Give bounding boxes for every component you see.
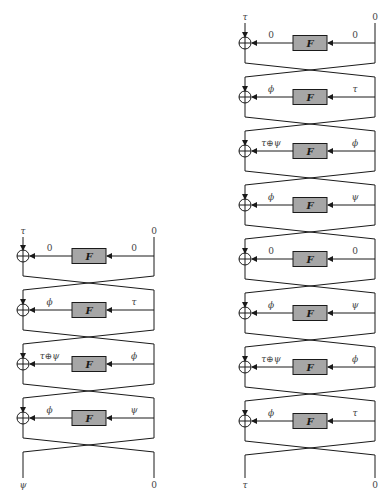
round-function-label: F (84, 305, 93, 316)
right-wire-label: ψ (351, 300, 359, 310)
left-wire-label: ϕ (46, 405, 52, 415)
feistel-network-8-rounds: τ0F00FϕτFτ⊕ψϕFϕψF00FϕψFτ⊕ψϕFϕττ0 (239, 12, 378, 490)
round-function-label: F (305, 146, 314, 157)
caption-fragment-left (62, 494, 212, 500)
right-wire-label: ψ (351, 192, 359, 202)
caption-fragment-right (285, 494, 391, 500)
left-wire-label: ϕ (268, 192, 274, 202)
bottom-output-left-label: ψ (19, 480, 27, 490)
left-wire-label: τ⊕ψ (40, 351, 61, 361)
bottom-output-right-label: 0 (151, 480, 157, 490)
right-wire-label: τ (353, 408, 359, 418)
round-function-label: F (305, 254, 314, 265)
left-wire-label: ϕ (268, 84, 274, 94)
right-wire-label: ϕ (352, 354, 358, 364)
round-function-label: F (84, 413, 93, 424)
right-wire-label: 0 (352, 246, 358, 256)
round-function-label: F (84, 359, 93, 370)
right-wire-label: τ (132, 297, 138, 307)
round-function-label: F (305, 416, 314, 427)
left-wire-label: ϕ (268, 408, 274, 418)
right-wire-label: τ (353, 84, 359, 94)
bottom-output-right-label: 0 (372, 480, 378, 490)
left-wire-label: 0 (268, 246, 274, 256)
right-wire-label: 0 (352, 30, 358, 40)
top-input-left-label: τ (243, 12, 249, 22)
round-function-label: F (305, 308, 314, 319)
right-wire-label: 0 (131, 243, 137, 253)
round-function-label: F (305, 92, 314, 103)
top-input-left-label: τ (21, 226, 27, 236)
left-wire-label: τ⊕ψ (261, 354, 282, 364)
top-input-right-label: 0 (372, 12, 378, 22)
round-function-label: F (305, 362, 314, 373)
left-wire-label: 0 (268, 30, 274, 40)
feistel-network-4-rounds: τ0F00FϕτFτ⊕ψϕFϕψψ0 (17, 226, 157, 490)
round-function-label: F (84, 251, 93, 262)
round-function-label: F (305, 38, 314, 49)
right-wire-label: ψ (130, 405, 138, 415)
left-wire-label: 0 (47, 243, 53, 253)
top-input-right-label: 0 (151, 226, 157, 236)
left-wire-label: ϕ (268, 300, 274, 310)
round-function-label: F (305, 200, 314, 211)
feistel-round: Fϕτ (239, 408, 375, 478)
left-wire-label: ϕ (46, 297, 52, 307)
feistel-round: Fϕψ (17, 405, 154, 478)
bottom-output-left-label: τ (243, 480, 249, 490)
feistel-diagram-canvas: τ0F00FϕτFτ⊕ψϕFϕψψ0 τ0F00FϕτFτ⊕ψϕFϕψF00Fϕ… (0, 0, 391, 500)
right-wire-label: ϕ (131, 351, 137, 361)
right-wire-label: ϕ (352, 138, 358, 148)
left-wire-label: τ⊕ψ (261, 138, 282, 148)
